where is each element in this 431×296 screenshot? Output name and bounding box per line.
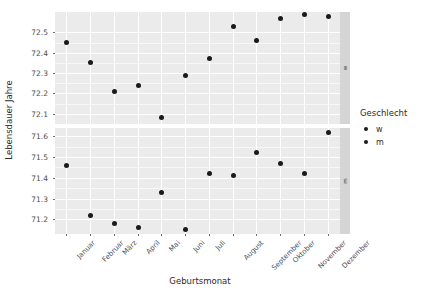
gridline-horizontal <box>55 93 340 94</box>
y-tick-mark <box>53 32 55 33</box>
gridline-vertical <box>304 12 305 124</box>
gridline-vertical <box>256 128 257 234</box>
gridline-vertical <box>185 128 186 234</box>
gridline-vertical <box>280 12 281 124</box>
gridline-horizontal <box>55 178 340 179</box>
x-tick-mark <box>256 234 257 236</box>
gridline-vertical <box>138 12 139 124</box>
x-tick-label: August <box>242 239 265 262</box>
x-tick-label: Mai <box>167 239 181 253</box>
gridline-vertical <box>233 12 234 124</box>
y-tick-label: 72.3 <box>8 69 48 78</box>
gridline-vertical <box>256 12 257 124</box>
x-tick-label: Januar <box>75 239 97 261</box>
y-tick-mark <box>53 53 55 54</box>
gridline-vertical <box>328 128 329 234</box>
data-point <box>231 173 236 178</box>
y-tick-label: 71.3 <box>8 194 48 203</box>
data-point <box>326 130 331 135</box>
gridline-vertical <box>114 12 115 124</box>
gridline-vertical <box>138 128 139 234</box>
gridline-horizontal-minor <box>55 43 340 44</box>
data-point <box>88 213 93 218</box>
data-point <box>112 89 117 94</box>
facet-strip-m: m <box>340 128 350 234</box>
x-tick-label: Juli <box>214 239 227 252</box>
x-tick-mark <box>90 234 91 236</box>
gridline-horizontal-minor <box>55 167 340 168</box>
facet-panel-m <box>55 128 340 234</box>
legend-key-icon-m <box>360 136 372 148</box>
x-tick-mark <box>328 234 329 236</box>
y-tick-label: 71.2 <box>8 215 48 224</box>
data-point <box>112 221 117 226</box>
gridline-vertical <box>328 12 329 124</box>
data-point <box>278 16 283 21</box>
y-tick-mark <box>53 93 55 94</box>
gridline-vertical <box>90 12 91 124</box>
y-tick-label: 71.6 <box>8 132 48 141</box>
x-tick-mark <box>66 234 67 236</box>
y-tick-mark <box>53 157 55 158</box>
gridline-horizontal-minor <box>55 147 340 148</box>
x-tick-mark <box>185 234 186 236</box>
gridline-horizontal-minor <box>55 104 340 105</box>
y-tick-label: 72.2 <box>8 89 48 98</box>
gridline-horizontal <box>55 219 340 220</box>
x-tick-label: Juni <box>191 239 206 254</box>
legend-item-w[interactable]: w <box>360 123 430 135</box>
facet-strip-w: w <box>340 12 350 124</box>
y-tick-mark <box>53 178 55 179</box>
y-tick-mark <box>53 199 55 200</box>
y-tick-label: 72.1 <box>8 109 48 118</box>
y-tick-mark <box>53 114 55 115</box>
gridline-vertical <box>209 12 210 124</box>
gridline-horizontal <box>55 32 340 33</box>
y-tick-label: 71.4 <box>8 173 48 182</box>
gridline-vertical <box>161 12 162 124</box>
x-tick-mark <box>161 234 162 236</box>
y-tick-label: 72.4 <box>8 48 48 57</box>
x-tick-mark <box>138 234 139 236</box>
data-point <box>326 14 331 19</box>
gridline-horizontal-minor <box>55 209 340 210</box>
gridline-horizontal <box>55 157 340 158</box>
data-point <box>302 12 307 17</box>
gridline-vertical <box>114 128 115 234</box>
x-tick-label: April <box>145 239 162 256</box>
x-tick-mark <box>304 234 305 236</box>
legend-key-icon-w <box>360 123 372 135</box>
x-tick-mark <box>114 234 115 236</box>
x-tick-label: März <box>121 239 139 257</box>
gridline-horizontal <box>55 73 340 74</box>
data-point <box>231 24 236 29</box>
data-point <box>183 73 188 78</box>
data-point <box>136 225 141 230</box>
facet-panel-w <box>55 12 340 124</box>
data-point <box>278 161 283 166</box>
facet-strip-label-m: m <box>342 178 348 183</box>
gridline-horizontal-minor <box>55 63 340 64</box>
legend-title: Geschlecht <box>360 108 430 118</box>
gridline-vertical <box>66 128 67 234</box>
facet-strip-label-w: w <box>342 66 348 71</box>
gridline-horizontal <box>55 53 340 54</box>
y-tick-label: 71.5 <box>8 153 48 162</box>
y-tick-mark <box>53 219 55 220</box>
gridline-vertical <box>90 128 91 234</box>
gridline-horizontal <box>55 136 340 137</box>
gridline-horizontal-minor <box>55 188 340 189</box>
x-tick-mark <box>280 234 281 236</box>
gridline-horizontal <box>55 114 340 115</box>
x-tick-mark <box>209 234 210 236</box>
gridline-vertical <box>209 128 210 234</box>
y-tick-mark <box>53 73 55 74</box>
legend-item-m[interactable]: m <box>360 136 430 148</box>
data-point <box>136 83 141 88</box>
legend-label-m: m <box>376 138 384 147</box>
legend-label-w: w <box>376 125 383 134</box>
gridline-vertical <box>161 128 162 234</box>
gridline-vertical <box>304 128 305 234</box>
gridline-vertical <box>66 12 67 124</box>
legend: Geschlecht w m <box>360 108 430 149</box>
